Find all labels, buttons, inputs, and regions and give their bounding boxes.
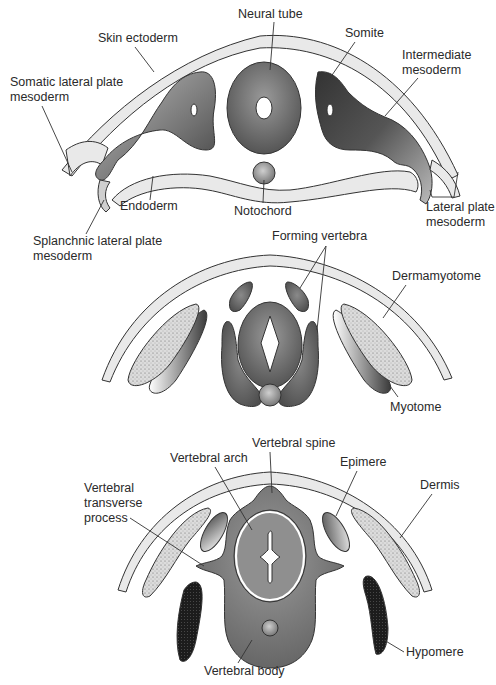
label-lateral-plate-mesoderm-2: mesoderm xyxy=(426,215,485,229)
notochord-shape-2 xyxy=(259,384,281,406)
hypomere-right-shape xyxy=(363,576,388,654)
label-myotome: Myotome xyxy=(390,400,441,414)
label-notochord: Notochord xyxy=(234,204,292,218)
label-intermediate-mesoderm-1: Intermediate xyxy=(402,48,472,62)
label-vertebral-transverse-process-1: Vertebral xyxy=(84,481,134,495)
label-vertebral-arch: Vertebral arch xyxy=(170,451,248,465)
embryo-cross-section-figure: Neural tube Skin ectoderm Somite Interme… xyxy=(0,0,496,685)
label-skin-ectoderm: Skin ectoderm xyxy=(98,31,178,45)
somite-left-cavity xyxy=(191,104,197,116)
label-forming-vertebra: Forming vertebra xyxy=(272,229,367,243)
label-epimere: Epimere xyxy=(340,455,387,469)
sclerotome-upper-right xyxy=(286,282,309,312)
notochord-remnant xyxy=(262,620,278,636)
label-vertebral-body: Vertebral body xyxy=(204,664,285,678)
label-somatic-lateral-plate-1: Somatic lateral plate xyxy=(10,75,123,89)
dermis-left-shape xyxy=(143,508,211,597)
somite-right-cavity xyxy=(327,104,333,116)
panel-early-somite-stage xyxy=(62,35,460,212)
label-splanchnic-lateral-plate-1: Splanchnic lateral plate xyxy=(33,234,162,248)
label-vertebral-transverse-process-3: process xyxy=(84,511,128,525)
hypomere-left-shape xyxy=(177,582,202,661)
label-somite: Somite xyxy=(345,26,384,40)
label-neural-tube: Neural tube xyxy=(238,7,303,21)
label-dermamyotome: Dermamyotome xyxy=(392,269,481,283)
label-vertebral-transverse-process-2: transverse xyxy=(84,496,142,510)
label-hypomere: Hypomere xyxy=(406,645,464,659)
panel-vertebra-stage xyxy=(118,472,432,668)
label-somatic-lateral-plate-2: mesoderm xyxy=(10,90,69,104)
label-intermediate-mesoderm-2: mesoderm xyxy=(402,63,461,77)
sclerotome-upper-left xyxy=(229,282,252,312)
label-vertebral-spine: Vertebral spine xyxy=(252,436,335,450)
neural-canal xyxy=(256,97,272,119)
label-endoderm: Endoderm xyxy=(120,199,178,213)
label-splanchnic-lateral-plate-2: mesoderm xyxy=(33,249,92,263)
label-lateral-plate-mesoderm-1: Lateral plate xyxy=(426,200,495,214)
label-dermis: Dermis xyxy=(420,478,460,492)
